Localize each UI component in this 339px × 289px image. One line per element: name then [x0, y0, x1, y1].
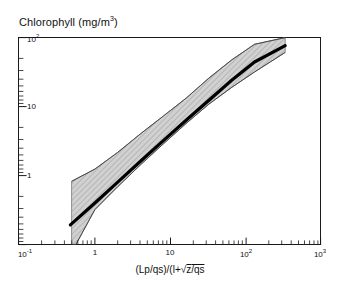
y-tick-10-base: 10	[27, 102, 36, 111]
x-tick-label-0p1: 10-1	[18, 248, 32, 259]
x-tick-label-10: 10	[166, 248, 175, 257]
chart-figure: Chlorophyll (mg/m3)	[0, 0, 339, 289]
x-tick-100-base: 10	[240, 250, 249, 259]
x-tick-label-100: 102	[240, 248, 252, 259]
x-axis-minor-ticks	[42, 240, 318, 244]
x-tick-1-base: 1	[93, 248, 97, 257]
x-tick-10-base: 10	[166, 248, 175, 257]
x-tick-1000-base: 10	[314, 250, 323, 259]
band-lower-edge	[76, 52, 285, 244]
y-tick-100-base: 10	[27, 35, 36, 44]
y-tick-100-exp: 2	[36, 33, 39, 39]
y-axis-minor-ticks	[19, 58, 24, 241]
x-tick-label-1000: 103	[314, 248, 326, 259]
x-tick-0p1-base: 10	[18, 250, 27, 259]
x-tick-0p1-exp: -1	[27, 248, 32, 254]
x-tick-label-1: 1	[93, 248, 97, 257]
x-axis-title: (Lp/qs)/(l+√z/qs	[135, 264, 204, 275]
confidence-band	[72, 38, 286, 245]
plot-canvas	[0, 0, 339, 289]
x-tick-1000-exp: 3	[323, 248, 326, 254]
x-axis-major-ticks	[19, 238, 321, 245]
y-tick-label-100: 102	[27, 33, 39, 44]
y-tick-1-base: 1	[27, 171, 31, 180]
x-tick-100-exp: 2	[249, 248, 252, 254]
x-axis-title-part2: /qs	[191, 264, 204, 275]
y-axis-major-ticks	[19, 38, 27, 245]
x-axis-title-part1: (Lp/qs)/(l+	[135, 264, 180, 275]
y-tick-label-10: 10	[27, 102, 36, 111]
y-tick-label-1: 1	[27, 171, 31, 180]
